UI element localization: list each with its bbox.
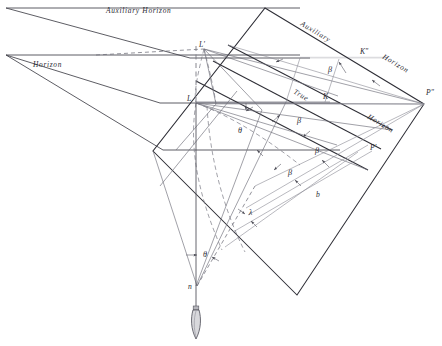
aux-projection-dashed [96, 49, 204, 55]
angle-label-beta-1: β [327, 65, 333, 74]
point-label-k-double-prime: Kʺ [359, 47, 369, 56]
plumb-bob [192, 306, 201, 339]
auxiliary-horizon-label-diagonal-2: Horizon [380, 51, 410, 74]
angle-label-theta-1: θ [238, 126, 242, 135]
auxiliary-horizon-plane [6, 8, 310, 58]
diagram-figure: Auxiliary Horizon Horizon Auxiliary Hori… [0, 0, 442, 346]
angle-label-beta-4: β [287, 168, 293, 177]
point-label-n: n [188, 282, 192, 291]
angle-label-theta-2: θ [203, 250, 207, 259]
auxiliary-horizon-label-left: Auxiliary Horizon [105, 6, 171, 15]
point-label-l-prime: L' [198, 40, 205, 49]
point-label-l: L [186, 94, 191, 103]
point-label-k: K [322, 92, 329, 101]
tilted-picture-plane [153, 8, 424, 295]
point-label-lambda: λ [248, 208, 253, 217]
angle-arrow-indicators [186, 59, 380, 261]
point-label-p-double-prime: Pʺ [425, 88, 435, 97]
perspective-horizon-diagram: Auxiliary Horizon Horizon Auxiliary Hori… [0, 0, 442, 346]
true-horizon-label-diagonal-1: True [292, 87, 311, 103]
angle-label-beta-3: β [314, 146, 320, 155]
point-label-b: b [316, 190, 320, 199]
point-label-p-prime: P' [369, 143, 377, 152]
horizon-label-left: Horizon [32, 60, 62, 69]
